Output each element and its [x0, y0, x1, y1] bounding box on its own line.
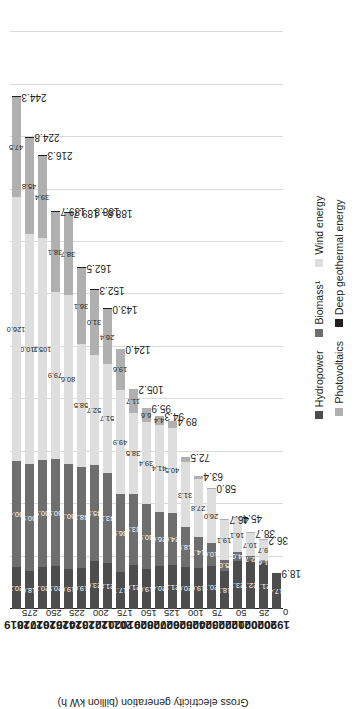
bar-segment-label: 48.3: [74, 514, 88, 521]
bar-segment: 19.0: [64, 569, 72, 609]
bar-segment-label: 39.4: [139, 459, 153, 466]
bar-segment: 50.4: [12, 461, 20, 567]
bar-segment: 50.9: [51, 459, 59, 566]
bar-group: 17.418.9: [272, 6, 280, 609]
bar-segment-label: 50.3: [61, 513, 75, 520]
bar-segment-label: 21.2: [165, 583, 179, 590]
bar-segment: 18.3: [220, 571, 228, 609]
bar-segment: 2.7: [246, 556, 254, 562]
bar-segment: 26.4: [103, 309, 111, 364]
bar-group: 20.426.041.44.494.3: [155, 6, 163, 609]
legend-label: Photovoltaics: [333, 341, 345, 403]
bar-segment-label: 20.0: [178, 584, 192, 591]
bar-segment: 45.8: [25, 138, 33, 234]
bar-segment: 5.0: [220, 560, 228, 570]
bar-segment: 21.0: [129, 565, 137, 609]
bar-segment: 1.6: [259, 560, 267, 563]
bar-segment-label: 31.3: [178, 491, 192, 498]
bar-segment-label: 19.6: [191, 585, 205, 592]
bar-total-label: 143.0: [113, 304, 138, 315]
bar-segment: 20.7: [207, 566, 215, 609]
bar-total-label: 72.5: [191, 452, 210, 463]
bar-segment-label: 49.9: [113, 438, 127, 445]
bar-segment: [168, 422, 176, 429]
bar-segment: 41.4: [155, 425, 163, 512]
bar-segment: 18.9: [181, 527, 189, 567]
bar-segment-label: 22.7: [243, 582, 257, 589]
bar-segment: 19.6: [116, 349, 124, 390]
bar-segment: [220, 519, 228, 520]
bar-segment: 19.0: [142, 569, 150, 609]
bar-segment-label: 24.6: [165, 535, 179, 542]
bar-segment: 11.7: [129, 389, 137, 414]
legend-item: Deep geothermal energy: [333, 199, 345, 327]
legend-swatch-icon: [315, 329, 323, 337]
bar-segment: 9.7: [259, 540, 267, 560]
bar-total-label: 38.7: [256, 528, 275, 539]
bar-total-label: 244.3: [22, 92, 47, 103]
bar-group: 19.614.727.863.4: [194, 6, 202, 609]
bar-segment-label: 18.9: [178, 544, 192, 551]
legend-row-2: PhotovoltaicsDeep geothermal energy: [329, 6, 349, 609]
legend-swatch-icon: [315, 411, 323, 419]
bar-group: 20.710.626.058.0: [207, 6, 215, 609]
bar-segment-label: 4.4: [154, 417, 164, 424]
bar-segment: 48.3: [77, 467, 85, 568]
bar-segment-label: 21.0: [126, 583, 140, 590]
bar-segment: 19.6: [77, 568, 85, 609]
y-axis-tick: 175: [117, 608, 133, 619]
bar-segment: 26.0: [155, 512, 163, 567]
bar-segment-label: 45.8: [22, 182, 36, 189]
bar-segment-label: 20.5: [48, 584, 62, 591]
legend-swatch-icon: [315, 259, 323, 267]
legend-item: Hydropower: [313, 351, 325, 420]
bar-segment-label: 19.0: [61, 585, 75, 592]
legend-label: Deep geothermal energy: [333, 199, 345, 315]
bar-segment: 126.0: [12, 197, 20, 461]
chart-legend: HydropowerBiomass¹Wind energy Photovolta…: [309, 6, 351, 609]
bar-segment: 39.4: [142, 422, 150, 505]
bar-segment-label: 38.5: [126, 450, 140, 457]
bar-segment-label: 80.6: [61, 375, 75, 382]
bar-group: 21.224.640.589.4: [168, 6, 176, 609]
bar-total-label: 162.5: [87, 263, 112, 274]
bar-segment-label: 50.4: [9, 510, 23, 517]
bar-segment: 4.0: [233, 552, 241, 560]
bar-segment: 79.9: [51, 292, 59, 460]
legend-swatch-icon: [335, 408, 343, 416]
bar-segment-label: 40.5: [165, 467, 179, 474]
bar-segment: 30.9: [142, 504, 150, 569]
bar-segment: 21.7: [259, 564, 267, 610]
bar-segment: 20.0: [181, 567, 189, 609]
legend-row-1: HydropowerBiomass¹Wind energy: [309, 6, 329, 609]
y-axis-title: Gross electricity generation (billion kW…: [57, 697, 248, 709]
bar-total-label: 46.7: [230, 514, 249, 525]
bar-segment-label: 79.9: [48, 372, 62, 379]
bar-total-label: 58.0: [217, 483, 236, 494]
bar-segment: 31.0: [90, 290, 98, 355]
bar-segment-label: 126.0: [7, 325, 26, 332]
bar-segment: 14.7: [194, 537, 202, 568]
y-axis-tick: 200: [93, 608, 109, 619]
y-axis-tick: 0: [283, 608, 288, 619]
bar-group: 20.018.931.372.5: [181, 6, 189, 609]
bar-segment-label: 17.7: [113, 587, 127, 594]
y-axis-tick: 250: [46, 608, 62, 619]
bar-segment: 36.9: [116, 495, 124, 572]
bar-segment-label: 33.9: [126, 526, 140, 533]
bar-segment-label: 20.7: [204, 584, 218, 591]
bar-segment-label: 21.8: [100, 582, 114, 589]
bar-segment: [181, 457, 189, 462]
bar-segment-label: 110.0: [21, 345, 39, 352]
bar-total-label: 224.8: [35, 132, 60, 143]
bar-segment: 21.2: [168, 565, 176, 609]
bar-segment: 45.5: [90, 465, 98, 560]
bar-total-label: 63.4: [204, 471, 223, 482]
bar-segment-label: 52.7: [87, 406, 101, 413]
bar-segment: [207, 488, 215, 489]
bar-segment: 23.1: [233, 561, 241, 609]
y-axis-tick: 100: [188, 608, 204, 619]
bar-segment: 22.7: [246, 561, 254, 609]
bar-group: 19.050.380.638.7188.8 - 189.7: [64, 6, 72, 609]
bar-segment-label: 36.9: [113, 530, 127, 537]
